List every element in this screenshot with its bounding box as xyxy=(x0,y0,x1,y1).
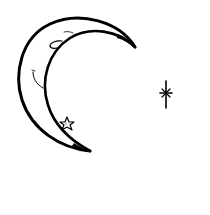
moon-drawing xyxy=(0,0,210,215)
eyebrow-icon xyxy=(64,32,73,33)
star-dot xyxy=(65,123,66,124)
crescent-moon-inner-edge xyxy=(45,31,135,151)
smile-end xyxy=(32,70,35,71)
moon-illustration xyxy=(0,0,210,215)
smile-icon xyxy=(33,72,43,88)
